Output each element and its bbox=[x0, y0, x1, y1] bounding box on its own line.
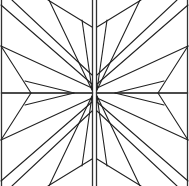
line-art-figure bbox=[0, 0, 189, 186]
ray-line bbox=[48, 0, 92, 27]
panel-top-left bbox=[1, 0, 93, 93]
ray-line bbox=[25, 81, 74, 93]
panel-bottom-right bbox=[97, 93, 189, 186]
ray-line bbox=[1, 5, 92, 84]
panel-top-right bbox=[97, 0, 189, 93]
ray-line bbox=[48, 159, 92, 186]
ray-line bbox=[25, 93, 74, 105]
ray-line bbox=[115, 81, 164, 93]
panel-frame bbox=[2, 93, 93, 186]
panel-frame bbox=[97, 93, 188, 186]
ray-line bbox=[97, 5, 188, 84]
ray-line bbox=[97, 159, 141, 186]
panel-frame bbox=[2, 0, 93, 93]
ray-line bbox=[115, 93, 164, 105]
ray-line bbox=[97, 0, 141, 27]
ray-line bbox=[97, 102, 188, 181]
panel-frame bbox=[97, 0, 188, 93]
ray-line bbox=[1, 102, 92, 181]
panel-bottom-left bbox=[1, 93, 93, 186]
